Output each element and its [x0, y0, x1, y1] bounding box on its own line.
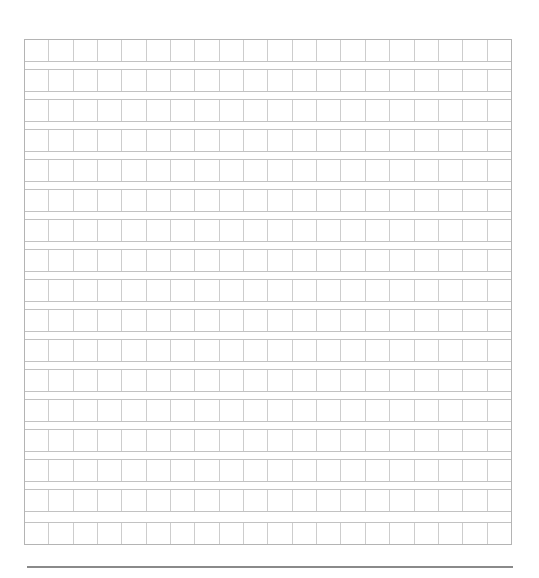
grid-cell — [122, 310, 146, 331]
grid-cell — [244, 70, 268, 91]
grid-cell — [171, 100, 195, 121]
grid-row — [25, 489, 511, 512]
grid-cell — [244, 130, 268, 151]
grid-cell — [317, 400, 341, 421]
grid-cell — [439, 280, 463, 301]
grid-cell — [122, 490, 146, 511]
grid-cell — [122, 250, 146, 271]
grid-cell — [122, 220, 146, 241]
grid-cell — [49, 400, 73, 421]
grid-cell — [98, 40, 122, 61]
grid-row — [25, 219, 511, 242]
grid-cell — [122, 460, 146, 481]
grid-cell — [49, 100, 73, 121]
grid-cell — [366, 523, 390, 544]
grid-cell — [293, 430, 317, 451]
grid-cell — [122, 70, 146, 91]
grid-cell — [439, 490, 463, 511]
grid-cell — [317, 523, 341, 544]
grid-cell — [147, 190, 171, 211]
grid-cell — [415, 340, 439, 361]
grid-cell — [74, 523, 98, 544]
grid-cell — [463, 310, 487, 331]
grid-cell — [25, 160, 49, 181]
grid-cell — [171, 523, 195, 544]
grid-cell — [463, 460, 487, 481]
grid-cell — [220, 400, 244, 421]
grid-cell — [488, 250, 511, 271]
grid-cell — [366, 70, 390, 91]
grid-cell — [25, 400, 49, 421]
grid-cell — [439, 100, 463, 121]
grid-cell — [244, 220, 268, 241]
grid-cell — [25, 490, 49, 511]
grid-cell — [463, 370, 487, 391]
grid-cell — [98, 100, 122, 121]
grid-cell — [25, 40, 49, 61]
grid-cell — [171, 280, 195, 301]
grid-cell — [195, 310, 219, 331]
grid-cell — [390, 523, 414, 544]
grid-cell — [390, 190, 414, 211]
grid-cell — [390, 70, 414, 91]
grid-row — [25, 39, 511, 62]
grid-cell — [220, 340, 244, 361]
grid-cell — [220, 490, 244, 511]
grid-cell — [98, 160, 122, 181]
grid-cell — [341, 70, 365, 91]
grid-cell — [74, 70, 98, 91]
grid-cell — [268, 490, 292, 511]
grid-row — [25, 429, 511, 452]
grid-cell — [74, 460, 98, 481]
grid-cell — [147, 100, 171, 121]
grid-cell — [341, 130, 365, 151]
grid-cell — [147, 370, 171, 391]
grid-cell — [122, 160, 146, 181]
grid-cell — [293, 460, 317, 481]
grid-cell — [49, 280, 73, 301]
grid-cell — [147, 250, 171, 271]
grid-cell — [390, 490, 414, 511]
grid-cell — [25, 523, 49, 544]
grid-cell — [293, 280, 317, 301]
grid-cell — [49, 310, 73, 331]
grid-cell — [341, 430, 365, 451]
grid-cell — [463, 190, 487, 211]
grid-cell — [147, 160, 171, 181]
grid-cell — [390, 310, 414, 331]
grid-cell — [220, 310, 244, 331]
grid-cell — [366, 250, 390, 271]
grid-cell — [244, 460, 268, 481]
grid-cell — [415, 370, 439, 391]
grid-cell — [488, 340, 511, 361]
grid-cell — [463, 490, 487, 511]
grid-cell — [366, 100, 390, 121]
grid-cell — [317, 370, 341, 391]
grid-cell — [171, 310, 195, 331]
grid-cell — [268, 160, 292, 181]
grid-cell — [195, 430, 219, 451]
grid-cell — [98, 430, 122, 451]
grid-cell — [341, 160, 365, 181]
grid-cell — [390, 400, 414, 421]
grid-cell — [390, 160, 414, 181]
grid-cell — [220, 130, 244, 151]
grid-cell — [341, 523, 365, 544]
grid-cell — [415, 70, 439, 91]
grid-cell — [463, 40, 487, 61]
grid-cell — [147, 130, 171, 151]
grid-cell — [317, 310, 341, 331]
grid-cell — [366, 460, 390, 481]
grid-cell — [366, 190, 390, 211]
grid-cell — [74, 490, 98, 511]
grid-cell — [439, 220, 463, 241]
grid-cell — [147, 340, 171, 361]
grid-cell — [122, 190, 146, 211]
grid-cell — [171, 340, 195, 361]
grid-cell — [293, 160, 317, 181]
grid-cell — [122, 430, 146, 451]
grid-row — [25, 99, 511, 122]
grid-cell — [74, 190, 98, 211]
grid-cell — [122, 340, 146, 361]
grid-cell — [488, 190, 511, 211]
